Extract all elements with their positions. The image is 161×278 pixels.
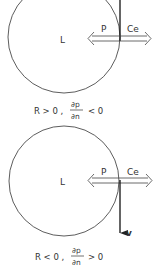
label-p-bottom: P <box>101 167 107 177</box>
panel-top: P Ce L R > 0 , ∂p ∂n < 0 <box>8 0 151 121</box>
diagram-canvas: P Ce L R > 0 , ∂p ∂n < 0 P Ce L v R < 0 … <box>0 0 161 278</box>
label-v: v <box>126 228 132 238</box>
caption-denominator: ∂n <box>71 112 80 121</box>
caption-prefix: R > 0 , <box>34 106 63 116</box>
label-ce-top: Ce <box>127 24 139 34</box>
label-p-top: P <box>101 24 107 34</box>
label-l-top: L <box>60 35 65 45</box>
label-ce-bottom: Ce <box>127 167 139 177</box>
caption-denominator: ∂n <box>72 258 81 267</box>
circle-top <box>8 0 120 93</box>
caption-numerator: ∂p <box>71 100 80 109</box>
caption-top: R > 0 , ∂p ∂n < 0 <box>34 100 103 121</box>
caption-bottom: R < 0 , ∂p ∂n > 0 <box>35 246 103 267</box>
caption-suffix: > 0 <box>88 252 103 262</box>
caption-prefix: R < 0 , <box>35 252 64 262</box>
caption-numerator: ∂p <box>72 246 81 255</box>
label-l-bottom: L <box>60 177 65 187</box>
panel-bottom: P Ce L v R < 0 , ∂p ∂n > 0 <box>9 126 152 267</box>
caption-suffix: < 0 <box>88 106 103 116</box>
